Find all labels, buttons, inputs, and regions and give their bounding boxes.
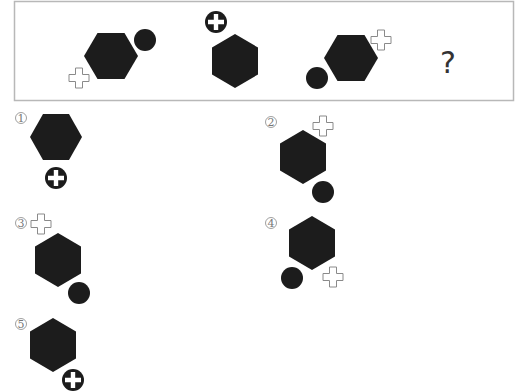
option-3[interactable]: 3 [16,214,91,304]
plus-outline-icon [323,267,343,287]
question-mark: ? [440,45,456,80]
option-label: 3 [18,217,25,230]
hexagon-icon [30,114,82,160]
hexagon-icon [280,130,326,184]
circle-icon [134,29,156,51]
option-2[interactable]: 2 [266,116,335,203]
hexagon-icon [212,34,258,88]
puzzle-canvas: ? 1 2 3 4 5 [0,0,517,392]
hexagon-icon [324,35,378,81]
plus-outline-icon [371,30,391,50]
option-5[interactable]: 5 [16,318,85,391]
circle-icon [281,267,303,289]
circle-icon [312,181,334,203]
plus-outline-icon [31,214,51,234]
option-label: 2 [268,116,275,129]
plus-outline-icon [69,68,89,88]
option-label: 1 [18,112,25,125]
option-label: 5 [18,318,25,331]
sequence-figure-2 [205,11,258,88]
hexagon-icon [35,233,81,287]
sequence-figure-1 [69,29,156,88]
hexagon-icon [30,318,76,372]
circle-icon [68,282,90,304]
sequence-figure-3 [306,30,391,89]
option-label: 4 [268,217,275,230]
option-1[interactable]: 1 [16,112,83,189]
plus-outline-icon [313,116,333,136]
circle-icon [306,67,328,89]
hexagon-icon [289,216,335,270]
hexagon-icon [84,33,138,79]
option-4[interactable]: 4 [266,216,344,289]
